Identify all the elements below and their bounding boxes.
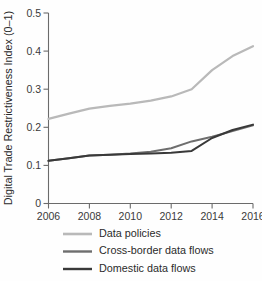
y-axis-ticks: 00.10.20.30.40.5 [26, 7, 48, 210]
x-tick-label: 2016 [241, 210, 262, 222]
chart-legend: Data policiesCross-border data flowsDome… [63, 227, 214, 274]
y-axis-label: Digital Trade Restrictiveness Index (0–1… [2, 11, 14, 205]
y-tick-label: 0.3 [26, 83, 41, 95]
data-series-group [49, 46, 254, 161]
y-tick-label: 0.1 [26, 159, 41, 171]
y-tick-label: 0 [35, 197, 41, 209]
x-axis-ticks: 200620082010201220142016 [37, 204, 262, 223]
x-tick-label: 2008 [78, 210, 102, 222]
x-tick-label: 2014 [200, 210, 224, 222]
y-tick-label: 0.4 [26, 45, 41, 57]
legend-label-1: Cross-border data flows [99, 244, 214, 256]
x-tick-label: 2012 [160, 210, 184, 222]
x-tick-label: 2010 [119, 210, 143, 222]
series-line-2 [49, 125, 254, 161]
series-line-0 [49, 46, 254, 119]
legend-label-0: Data policies [99, 227, 161, 239]
y-tick-label: 0.5 [26, 7, 41, 19]
y-tick-label: 0.2 [26, 121, 41, 133]
legend-label-2: Domestic data flows [99, 262, 196, 274]
y-axis-label-group: Digital Trade Restrictiveness Index (0–1… [2, 11, 14, 205]
series-line-1 [49, 125, 254, 160]
chart-figure: Digital Trade Restrictiveness Index (0–1… [0, 0, 262, 281]
line-chart: Digital Trade Restrictiveness Index (0–1… [0, 0, 262, 281]
x-tick-label: 2006 [37, 210, 61, 222]
